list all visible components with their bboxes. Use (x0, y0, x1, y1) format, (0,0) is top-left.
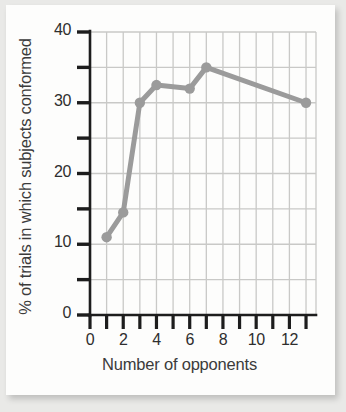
plot-area (6, 5, 335, 395)
data-point (118, 207, 128, 217)
data-point (201, 62, 211, 72)
data-point (185, 83, 195, 93)
chart-figure: % of trials in which subjects conformed … (6, 5, 335, 395)
axis-ticks (77, 32, 306, 329)
figure-page: % of trials in which subjects conformed … (6, 5, 335, 395)
data-point (151, 80, 161, 90)
data-point (101, 232, 111, 242)
data-point (135, 98, 145, 108)
data-point (301, 98, 311, 108)
